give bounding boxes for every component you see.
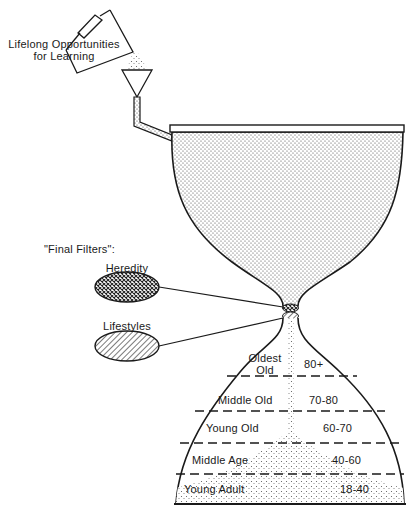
age-band-oldest-old: Oldest Old [240,352,290,376]
hourglass-neck [283,304,299,320]
final-filters-heading: "Final Filters": [44,243,115,255]
age-band-middle-age: Middle Age [192,454,248,466]
age-band-name-2: Old [240,364,290,376]
source-label-line1: Lifelong Opportunities [4,38,124,50]
hourglass-upper-bulb [170,125,404,306]
age-band-range: 80+ [304,358,323,370]
funnel-icon [122,70,172,141]
source-label: Lifelong Opportunities for Learning [4,38,124,62]
age-band-range: 70-80 [309,394,338,406]
pour-stream [126,53,148,70]
filter-lifestyles-label: Lifestyles [97,320,157,332]
hourglass-diagram [0,0,416,517]
age-band-name: Oldest [240,352,290,364]
age-band-range: 60-70 [323,422,352,434]
hourglass-lower-bulb [174,318,406,504]
filter-heredity-label: Heredity [97,262,157,274]
age-band-range: 40-60 [332,454,361,466]
age-band-young-old: Young Old [206,422,259,434]
age-band-middle-old: Middle Old [218,394,273,406]
age-band-young-adult: Young Adult [184,483,245,495]
source-label-line2: for Learning [4,50,124,62]
age-band-range: 18-40 [340,483,369,495]
